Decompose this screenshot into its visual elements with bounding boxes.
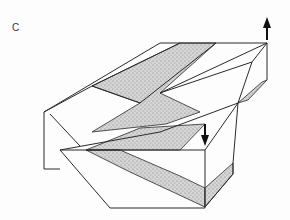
lower-stippled-band (86, 124, 233, 207)
up-arrow-icon (263, 17, 271, 40)
block-diagram (0, 0, 290, 220)
upper-stippled-band (92, 43, 216, 132)
